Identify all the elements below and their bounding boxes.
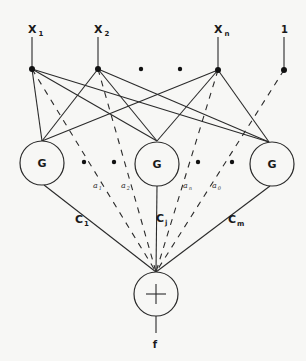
svg-text:Cj: Cj bbox=[156, 212, 167, 227]
input-nodes bbox=[29, 66, 287, 73]
ellipsis-dot bbox=[139, 67, 143, 71]
input-hidden-connections bbox=[32, 69, 269, 142]
svg-text:a1: a1 bbox=[93, 181, 102, 191]
input-node-x2 bbox=[95, 66, 101, 72]
svg-text:an: an bbox=[183, 181, 192, 191]
input-node-bias bbox=[281, 67, 287, 73]
hidden-weight-labels: C1 Cj Cm bbox=[75, 212, 244, 228]
network-diagram: X1 X2 Xn 1 G G G a1 a2 an a0 C1 Cj Cm f bbox=[0, 0, 306, 361]
sum-node bbox=[134, 272, 178, 333]
svg-text:1: 1 bbox=[281, 24, 288, 35]
svg-text:G: G bbox=[37, 157, 46, 170]
svg-text:X2: X2 bbox=[94, 23, 109, 38]
input-labels: X1 X2 Xn 1 bbox=[28, 23, 288, 38]
svg-text:a2: a2 bbox=[121, 181, 130, 191]
ellipsis-dot bbox=[196, 160, 200, 164]
hidden-output-connections bbox=[44, 185, 270, 272]
svg-text:X1: X1 bbox=[28, 23, 43, 38]
svg-text:Cm: Cm bbox=[228, 213, 244, 228]
svg-text:G: G bbox=[267, 158, 276, 171]
hidden-nodes: G G G bbox=[20, 141, 294, 186]
ellipsis-dot bbox=[230, 160, 234, 164]
ellipsis-dot bbox=[82, 160, 86, 164]
svg-text:Xn: Xn bbox=[214, 23, 229, 38]
svg-text:C1: C1 bbox=[75, 213, 89, 228]
input-node-xn bbox=[215, 67, 221, 73]
svg-text:G: G bbox=[152, 158, 161, 171]
output-label: f bbox=[153, 339, 158, 350]
ellipsis-dot bbox=[178, 67, 182, 71]
input-stems bbox=[32, 37, 284, 70]
ellipsis-dot bbox=[112, 160, 116, 164]
input-node-x1 bbox=[29, 66, 35, 72]
svg-text:a0: a0 bbox=[212, 181, 222, 191]
